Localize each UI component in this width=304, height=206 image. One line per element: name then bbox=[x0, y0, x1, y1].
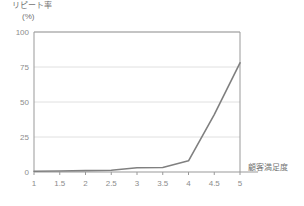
x-tick-label: 4.5 bbox=[209, 179, 221, 188]
y-tick-label: 0 bbox=[25, 168, 30, 177]
plot-area: 0255075100 11.522.533.544.55 bbox=[0, 0, 304, 206]
y-tick-label: 75 bbox=[20, 63, 29, 72]
y-tick-labels: 0255075100 bbox=[16, 28, 30, 177]
x-tick-label: 2 bbox=[83, 179, 88, 188]
x-tick-label: 4 bbox=[186, 179, 191, 188]
x-tick-label: 5 bbox=[238, 179, 243, 188]
gridlines bbox=[34, 32, 240, 137]
y-tick-label: 50 bbox=[20, 98, 29, 107]
x-tick-label: 1.5 bbox=[54, 179, 66, 188]
y-tick-label: 100 bbox=[16, 28, 30, 37]
x-tick-label: 1 bbox=[32, 179, 37, 188]
data-series-line bbox=[34, 63, 240, 172]
chart-container: リピート率 (%) 顧客満足度 0255075100 11.522.533.54… bbox=[0, 0, 304, 206]
x-tick-label: 2.5 bbox=[106, 179, 118, 188]
x-tick-label: 3 bbox=[135, 179, 140, 188]
x-tick-label: 3.5 bbox=[157, 179, 169, 188]
x-tick-labels: 11.522.533.544.55 bbox=[32, 179, 243, 188]
y-tick-label: 25 bbox=[20, 133, 29, 142]
